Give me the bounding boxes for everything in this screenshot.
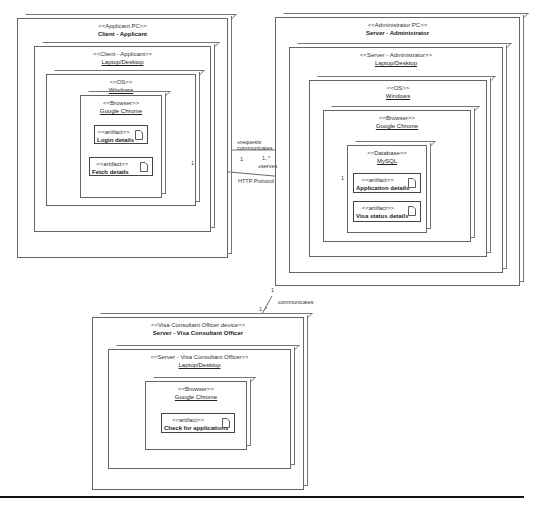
client-browser-name: Google Chrome xyxy=(81,107,161,115)
client-laptop-name: Laptop/Desktop xyxy=(35,58,210,66)
artifact-check-for-applications: <<artifact>> Check for applications xyxy=(161,413,235,433)
server-officer-communicates: communicates xyxy=(278,299,313,305)
document-icon xyxy=(408,178,416,188)
server-laptop-stereotype: <<Server - Administrator>> xyxy=(290,51,502,59)
server-os-name: Windows xyxy=(310,92,486,100)
artifact-login-details: <<artifact>> Login details xyxy=(94,125,148,144)
server-laptop-name: Laptop/Desktop xyxy=(290,59,502,67)
server-browser-name: Google Chrome xyxy=(324,122,470,130)
officer-stereotype: <<Visa Consultant Officer device>> xyxy=(93,321,303,329)
multiplicity-left: 1 xyxy=(240,156,243,162)
serves-label: «serves xyxy=(258,163,277,169)
server-end-multiplicity: 1 xyxy=(341,175,344,181)
document-icon xyxy=(408,206,416,216)
artifact-stereotype: <<artifact>> xyxy=(95,129,132,135)
server-officer-mult-server: 1 xyxy=(271,287,274,293)
artifact-stereotype: <<artifact>> xyxy=(162,417,214,423)
document-icon xyxy=(140,162,148,172)
client-browser-node: <<Browser>> Google Chrome xyxy=(80,95,162,198)
database-stereotype: <<Database>> xyxy=(348,149,426,157)
officer-laptop-name: Laptop/Desktop xyxy=(109,361,290,369)
client-browser-stereotype: <<Browser>> xyxy=(81,99,161,107)
server-browser-stereotype: <<Browser>> xyxy=(324,114,470,122)
artifact-application-details: <<artifact>> Application details xyxy=(353,173,421,193)
protocol-label: HTTP Protocol xyxy=(238,178,274,184)
server-name: Server - Administrator xyxy=(276,29,519,37)
client-os-stereotype: <<OS>> xyxy=(47,78,195,86)
artifact-stereotype: <<artifact>> xyxy=(354,177,402,183)
artifact-name: Application details xyxy=(356,185,409,191)
officer-browser-name: Google Chrome xyxy=(146,393,246,401)
artifact-name: Login details xyxy=(97,137,134,143)
client-laptop-stereotype: <<Client - Applicant>> xyxy=(35,50,210,58)
artifact-stereotype: <<artifact>> xyxy=(90,161,135,167)
artifact-visa-status-details: <<artifact>> Visa status details xyxy=(353,201,421,222)
communicates-label: communicates xyxy=(237,145,272,151)
artifact-name: Visa status details xyxy=(356,213,408,219)
officer-laptop-stereotype: <<Server - Visa Consultant Officer>> xyxy=(109,353,290,361)
artifact-name: Fetch details xyxy=(92,169,129,175)
bottom-rule xyxy=(0,496,524,498)
server-stereotype: <<Administrator PC>> xyxy=(276,21,519,29)
client-name: Client - Applicant xyxy=(18,30,227,38)
multiplicity-right: 1..* xyxy=(262,155,270,161)
artifact-stereotype: <<artifact>> xyxy=(354,205,402,211)
server-officer-mult-officer: 1..* xyxy=(259,306,267,312)
client-end-multiplicity: 1 xyxy=(191,160,194,166)
server-os-stereotype: <<OS>> xyxy=(310,84,486,92)
client-stereotype: <<Applicant PC>> xyxy=(18,22,227,30)
database-name: MySQL xyxy=(348,157,426,165)
document-icon xyxy=(222,418,230,428)
artifact-name: Check for applications xyxy=(164,425,228,431)
artifact-fetch-details: <<artifact>> Fetch details xyxy=(89,157,153,176)
officer-browser-stereotype: <<Browser>> xyxy=(146,385,246,393)
officer-name: Server - Visa Consultant Officer xyxy=(93,329,303,337)
document-icon xyxy=(135,130,143,140)
